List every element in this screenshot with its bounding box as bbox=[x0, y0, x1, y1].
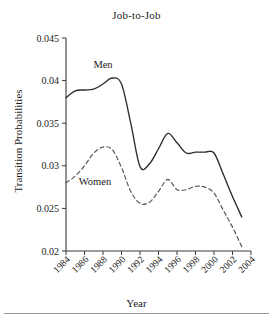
series-annotation-women: Women bbox=[79, 176, 112, 187]
y-tick-label: 0.03 bbox=[42, 160, 60, 171]
footer-divider bbox=[4, 313, 269, 314]
x-tick-label: 2002 bbox=[218, 254, 239, 275]
x-tick-label: 1998 bbox=[181, 254, 202, 275]
series-annotation-men: Men bbox=[93, 59, 113, 70]
x-tick-label: 1984 bbox=[51, 254, 72, 275]
y-tick-label: 0.045 bbox=[37, 33, 60, 44]
y-tick-label: 0.04 bbox=[42, 75, 60, 86]
y-tick-label: 0.025 bbox=[37, 203, 60, 214]
y-tick-label: 0.035 bbox=[37, 118, 60, 129]
x-tick-label: 1996 bbox=[162, 254, 183, 275]
plot-area: 0.020.0250.030.0350.040.045 198419861988… bbox=[0, 0, 273, 324]
chart-figure: Job-to-Job Transition Probabilities 0.02… bbox=[0, 0, 273, 324]
y-tick-label: 0.02 bbox=[42, 246, 60, 257]
x-axis-ticks: 1984198619881990199219941996199820002002… bbox=[51, 251, 257, 275]
x-tick-label: 2000 bbox=[199, 254, 220, 275]
x-tick-label: 1990 bbox=[107, 254, 128, 275]
y-axis-ticks: 0.020.0250.030.0350.040.045 bbox=[37, 33, 67, 257]
data-series bbox=[66, 78, 242, 247]
x-tick-label: 1992 bbox=[125, 254, 146, 275]
series-annotations: MenWomen bbox=[79, 59, 114, 187]
x-tick-label: 1986 bbox=[70, 254, 91, 275]
x-tick-label: 1994 bbox=[144, 254, 165, 275]
series-line-women bbox=[66, 147, 242, 247]
x-tick-label: 2004 bbox=[236, 254, 257, 275]
x-tick-label: 1988 bbox=[88, 254, 109, 275]
x-axis-label: Year bbox=[0, 297, 273, 309]
